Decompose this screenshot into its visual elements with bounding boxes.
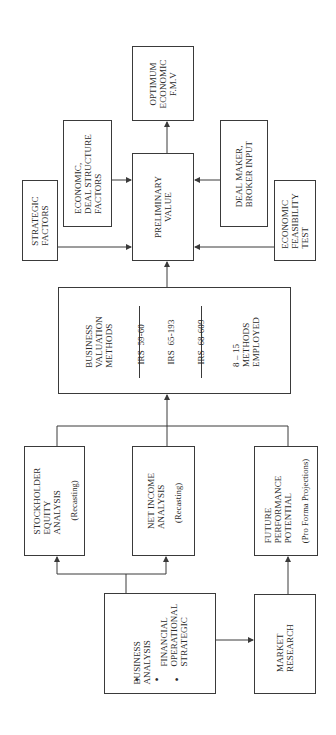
future-line-1: FUTURE — [263, 459, 273, 543]
business-analysis-item-3: STRATEGIC — [179, 603, 189, 684]
optimum-line-3: F.M.V — [168, 59, 178, 108]
deal-maker-line-2: BROKER INPUT — [244, 140, 254, 206]
net-income-text: NET INCOME ANALYSIS (Recasting) — [145, 473, 182, 529]
count-line-2: METHODS — [241, 317, 251, 367]
future-line-3: POTENTIAL — [283, 459, 293, 543]
deal-maker-text: DEAL MAKER, BROKER INPUT — [234, 140, 254, 206]
business-analysis-ellipsis: • • • — [135, 674, 185, 685]
future-note: (Pro Forma Projections) — [300, 459, 310, 543]
net-income-box: NET INCOME ANALYSIS (Recasting) — [132, 446, 195, 556]
count-line-3: EMPLOYED — [251, 317, 261, 367]
economic-feasibility-box: ECONOMIC FEASIBILITY TEST — [274, 180, 316, 261]
valuation-title-line-2: VALUATION — [94, 316, 104, 368]
preliminary-text: PRELIMINARY VALUE — [153, 176, 173, 238]
feasibility-text: ECONOMIC FEASIBILITY TEST — [280, 193, 310, 249]
feasibility-line-3: TEST — [300, 193, 310, 249]
economic-deal-line-2: DEAL STRUCTURE — [83, 134, 93, 214]
market-research-line-2: RESEARCH — [285, 624, 295, 672]
economic-deal-line-1: ECONOMIC, — [73, 134, 83, 214]
valuation-methods-box: BUSINESS VALUATION METHODS IRS 59-60 IRS… — [58, 287, 291, 394]
strategic-line-1: STRATEGIC — [30, 196, 40, 245]
business-analysis-box: BUSINESS ANALYSIS FINANCIAL OPERATIONAL … — [104, 593, 216, 694]
valuation-irs-section: IRS 59-60 IRS 65-193 IRS 68-609 — [140, 288, 201, 395]
business-analysis-line-1: BUSINESS — [132, 603, 142, 684]
preliminary-value-box: PRELIMINARY VALUE — [132, 153, 194, 261]
valuation-title-text: BUSINESS VALUATION METHODS — [84, 316, 114, 368]
preliminary-line-1: PRELIMINARY — [153, 176, 163, 238]
feasibility-line-1: ECONOMIC — [280, 193, 290, 249]
valuation-process-diagram: OPTIMUM ECONOMIC F.M.V ECONOMIC, DEAL ST… — [0, 0, 336, 735]
business-analysis-line-2: ANALYSIS — [142, 603, 152, 684]
business-analysis-item-2: OPERATIONAL — [169, 603, 179, 684]
valuation-count-text: 8 – 15 METHODS EMPLOYED — [231, 317, 261, 367]
optimum-economic-fmv-box: OPTIMUM ECONOMIC F.M.V — [132, 46, 194, 121]
net-income-line-1: NET INCOME — [145, 473, 155, 529]
valuation-title-line-3: METHODS — [104, 316, 114, 368]
future-line-2: PERFORMANCE — [273, 459, 283, 543]
net-income-note: (Recasting) — [172, 473, 182, 529]
future-performance-box: FUTURE PERFORMANCE POTENTIAL (Pro Forma … — [254, 446, 318, 556]
stockholder-line-2: EQUITY — [41, 468, 51, 535]
optimum-line-2: ECONOMIC — [158, 59, 168, 108]
valuation-count-section: 8 – 15 METHODS EMPLOYED — [202, 288, 290, 395]
stockholder-line-1: STOCKHOLDER — [31, 468, 41, 535]
strategic-factors-box: STRATEGIC FACTORS — [22, 180, 58, 261]
deal-maker-broker-box: DEAL MAKER, BROKER INPUT — [220, 120, 268, 227]
economic-deal-structure-box: ECONOMIC, DEAL STRUCTURE FACTORS — [63, 120, 112, 227]
deal-maker-line-1: DEAL MAKER, — [234, 140, 244, 206]
market-research-box: MARKET RESEARCH — [254, 594, 316, 694]
preliminary-line-2: VALUE — [163, 176, 173, 238]
business-analysis-text: BUSINESS ANALYSIS FINANCIAL OPERATIONAL … — [132, 603, 189, 684]
strategic-text: STRATEGIC FACTORS — [30, 196, 50, 245]
stockholder-note: (Recasting) — [68, 468, 78, 535]
business-analysis-item-1: FINANCIAL — [159, 603, 169, 684]
market-research-text: MARKET RESEARCH — [275, 624, 295, 672]
count-line-1: 8 – 15 — [231, 317, 241, 367]
stockholder-line-3: ANALYSIS — [51, 468, 61, 535]
stockholder-equity-box: STOCKHOLDER EQUITY ANALYSIS (Recasting) — [24, 446, 85, 556]
strategic-line-2: FACTORS — [40, 196, 50, 245]
future-text: FUTURE PERFORMANCE POTENTIAL (Pro Forma … — [263, 459, 310, 543]
economic-deal-line-3: FACTORS — [93, 134, 103, 214]
irs-line-2: IRS 65-193 — [166, 319, 176, 364]
optimum-text: OPTIMUM ECONOMIC F.M.V — [148, 59, 178, 108]
feasibility-line-2: FEASIBILITY — [290, 193, 300, 249]
optimum-line-1: OPTIMUM — [148, 59, 158, 108]
economic-deal-text: ECONOMIC, DEAL STRUCTURE FACTORS — [73, 134, 103, 214]
market-research-line-1: MARKET — [275, 624, 285, 672]
irs-line-1: IRS 59-60 — [136, 319, 146, 364]
stockholder-text: STOCKHOLDER EQUITY ANALYSIS (Recasting) — [31, 468, 78, 535]
valuation-title-line-1: BUSINESS — [84, 316, 94, 368]
net-income-line-2: ANALYSIS — [155, 473, 165, 529]
